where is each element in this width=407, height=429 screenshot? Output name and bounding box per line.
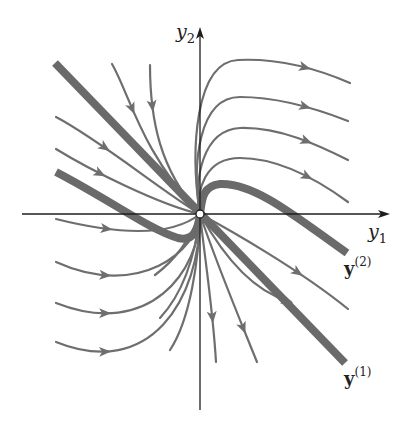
- eigenvector-y2-label: y(2): [343, 255, 371, 279]
- trajectory-arrow-icon: [300, 169, 315, 183]
- eigen-curve-y2-left: [56, 172, 200, 239]
- origin-critical-point: [196, 210, 204, 218]
- y2-axis-label: y2: [175, 20, 195, 46]
- trajectory-arrow-icon: [299, 134, 314, 148]
- eigenvector-y1-label: y(1): [343, 365, 371, 389]
- trajectory-arrow-icon: [290, 265, 306, 280]
- trajectory-1: [197, 97, 348, 214]
- trajectory-arrow-icon: [236, 321, 250, 336]
- trajectory-7: [56, 117, 200, 214]
- trajectory-11: [56, 214, 200, 313]
- eigen-curve-y2-right: [200, 184, 347, 253]
- trajectory-arrow-icon: [298, 100, 312, 113]
- phase-portrait-diagram: y1 y2 y(2) y(1): [0, 0, 407, 429]
- trajectory-arrow-icon: [93, 166, 108, 180]
- trajectory-arrow-icon: [125, 101, 139, 116]
- trajectory-arrow-icon: [298, 61, 312, 74]
- y1-axis-label: y1: [367, 220, 387, 246]
